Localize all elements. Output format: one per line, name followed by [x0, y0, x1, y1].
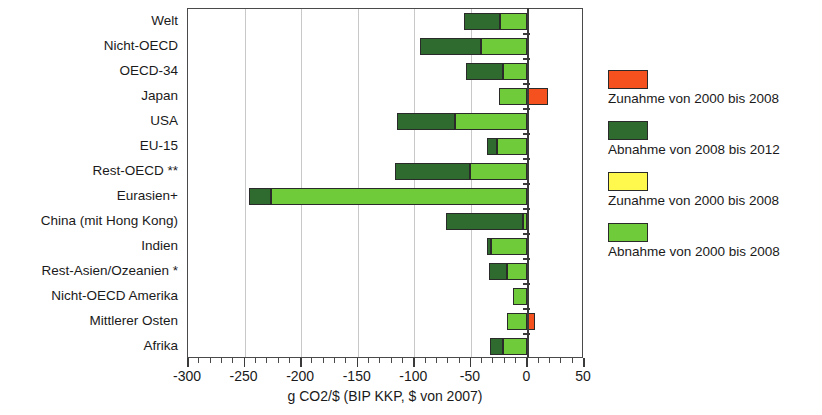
x-tick-major: [357, 358, 359, 367]
x-tick-label: 50: [553, 368, 613, 384]
x-tick-label: -150: [327, 368, 387, 384]
category-label: Welt: [0, 14, 182, 28]
x-tick-minor: [266, 358, 267, 363]
bar-row: [188, 159, 582, 184]
x-tick-minor: [481, 358, 482, 363]
bar-segment-abnahme-2000-2008: [500, 13, 527, 30]
bar-row: [188, 9, 582, 34]
bar-row: [188, 84, 582, 109]
category-tick: [523, 108, 530, 110]
bar-segment-abnahme-2000-2008: [481, 38, 527, 55]
bar-segment-abnahme-2000-2008: [271, 188, 528, 205]
category-tick: [523, 333, 530, 335]
x-tick-minor: [504, 358, 505, 363]
bar-segment-abnahme-2000-2008: [455, 113, 527, 130]
x-tick-minor: [447, 358, 448, 363]
bar-row: [188, 59, 582, 84]
category-tick: [523, 208, 530, 210]
category-label: Nicht-OECD Amerika: [0, 289, 182, 303]
bar-segment-zunahme-2000-2008: [527, 88, 547, 105]
category-label: Rest-OECD **: [0, 164, 182, 178]
category-label: Afrika: [0, 339, 182, 353]
category-label: Japan: [0, 89, 182, 103]
bar-row: [188, 109, 582, 134]
category-label: EU-15: [0, 139, 182, 153]
bar-chart: WeltNicht-OECDOECD-34JapanUSAEU-15Rest-O…: [0, 0, 822, 415]
bar-segment-abnahme-2000-2008: [503, 63, 528, 80]
x-axis-title: g CO2/$ (BIP KKP, $ von 2007): [187, 388, 583, 404]
legend-swatch: [608, 70, 648, 89]
bar-segment-abnahme-2008-2012: [487, 238, 492, 255]
bar-row: [188, 34, 582, 59]
category-axis-labels: WeltNicht-OECDOECD-34JapanUSAEU-15Rest-O…: [0, 8, 182, 358]
category-tick: [523, 83, 530, 85]
x-tick-minor: [278, 358, 279, 363]
x-tick-major: [470, 358, 472, 367]
x-tick-minor: [379, 358, 380, 363]
category-label: Rest-Asien/Ozeanien *: [0, 264, 182, 278]
x-tick-major: [526, 358, 528, 367]
bar-segment-abnahme-2000-2008: [503, 338, 528, 355]
legend-label: Abnahme von 2008 bis 2012: [608, 142, 822, 157]
bar-segment-abnahme-2008-2012: [464, 13, 500, 30]
bar-segment-abnahme-2000-2008: [513, 288, 528, 305]
x-tick-minor: [572, 358, 573, 363]
x-tick-minor: [459, 358, 460, 363]
bar-row: [188, 284, 582, 309]
x-tick-major: [244, 358, 246, 367]
category-tick: [523, 158, 530, 160]
bar-row: [188, 184, 582, 209]
x-tick-major: [583, 358, 585, 367]
bar-segment-abnahme-2008-2012: [420, 38, 481, 55]
category-tick: [523, 58, 530, 60]
category-tick: [523, 283, 530, 285]
x-tick-minor: [232, 358, 233, 363]
bar-segment-abnahme-2000-2008: [507, 263, 527, 280]
x-tick-major: [187, 358, 189, 367]
category-tick: [523, 258, 530, 260]
category-label: Nicht-OECD: [0, 39, 182, 53]
bar-row: [188, 309, 582, 334]
bar-segment-abnahme-2000-2008: [507, 313, 527, 330]
legend-item: Zunahme von 2000 bis 2008: [608, 70, 822, 106]
chart-legend: Zunahme von 2000 bis 2008Abnahme von 200…: [608, 70, 822, 274]
x-tick-minor: [311, 358, 312, 363]
bar-row: [188, 259, 582, 284]
x-axis: -300-250-200-150-100-50050: [187, 358, 583, 368]
x-tick-minor: [221, 358, 222, 363]
category-label: OECD-34: [0, 64, 182, 78]
x-tick-minor: [323, 358, 324, 363]
bar-segment-abnahme-2000-2008: [470, 163, 528, 180]
category-label: China (mit Hong Kong): [0, 214, 182, 228]
category-tick: [523, 33, 530, 35]
bar-segment-abnahme-2008-2012: [397, 113, 455, 130]
x-tick-minor: [198, 358, 199, 363]
category-tick: [523, 133, 530, 135]
legend-swatch: [608, 223, 648, 242]
x-tick-label: -50: [440, 368, 500, 384]
category-tick: [523, 233, 530, 235]
category-label: Mittlerer Osten: [0, 314, 182, 328]
category-label: USA: [0, 114, 182, 128]
x-tick-minor: [289, 358, 290, 363]
x-tick-minor: [368, 358, 369, 363]
bar-segment-abnahme-2008-2012: [446, 213, 523, 230]
x-tick-minor: [402, 358, 403, 363]
x-tick-label: 0: [496, 368, 556, 384]
x-tick-minor: [560, 358, 561, 363]
x-tick-minor: [255, 358, 256, 363]
x-tick-major: [413, 358, 415, 367]
category-tick: [523, 183, 530, 185]
bar-row: [188, 234, 582, 259]
x-tick-minor: [210, 358, 211, 363]
x-tick-label: -100: [383, 368, 443, 384]
x-tick-minor: [334, 358, 335, 363]
x-tick-major: [300, 358, 302, 367]
category-tick: [523, 308, 530, 310]
legend-swatch: [608, 121, 648, 140]
bar-segment-abnahme-2000-2008: [497, 138, 528, 155]
legend-item: Abnahme von 2000 bis 2008: [608, 223, 822, 259]
category-label: Indien: [0, 239, 182, 253]
bar-segment-abnahme-2000-2008: [491, 238, 527, 255]
x-tick-minor: [345, 358, 346, 363]
